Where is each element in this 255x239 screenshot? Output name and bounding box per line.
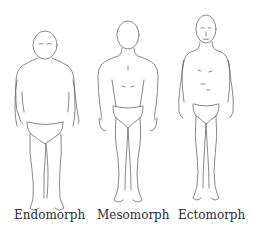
endomorph-label: Endomorph [14, 208, 76, 222]
ectomorph-figure [0, 0, 255, 239]
mesomorph-label: Mesomorph [97, 208, 159, 222]
body-types-diagram: Endomorph Mesomorph Ectomorph [0, 0, 255, 239]
ectomorph-label: Ectomorph [178, 208, 240, 222]
